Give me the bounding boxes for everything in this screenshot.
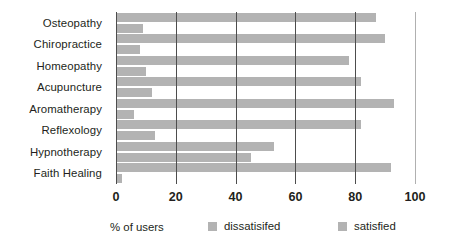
tick-label-80: 80: [348, 190, 362, 205]
legend-item-dissatisfied: dissatisifed: [208, 219, 280, 233]
bar-satisfied: [116, 77, 361, 86]
chart-footer: % of users dissatisifed satisfied: [0, 219, 449, 239]
legend-swatch-icon: [338, 222, 347, 231]
tick-label-60: 60: [288, 190, 302, 205]
bar-chart: Osteopathy Chiropractice Homeopathy Acup…: [0, 0, 449, 244]
bar-dissatisfied: [116, 153, 251, 162]
value-axis: 020406080100: [0, 190, 449, 208]
category-label-osteopathy: Osteopathy: [0, 17, 102, 29]
grid-line-60: [295, 12, 296, 184]
category-label-chiropractice: Chiropractice: [0, 38, 102, 50]
bar-dissatisfied: [116, 45, 140, 54]
bar-dissatisfied: [116, 110, 134, 119]
legend-label-dissatisfied: dissatisifed: [224, 219, 280, 233]
axis-caption: % of users: [110, 220, 164, 234]
bar-satisfied: [116, 163, 391, 172]
category-label-hypnotherapy: Hypnotherapy: [0, 146, 102, 158]
plot-area: [116, 12, 415, 184]
grid-line-20: [176, 12, 177, 184]
legend-item-satisfied: satisfied: [338, 219, 396, 233]
bar-dissatisfied: [116, 88, 152, 97]
grid-line-80: [355, 12, 356, 184]
bar-satisfied: [116, 56, 349, 65]
category-label-aromatherapy: Aromatherapy: [0, 103, 102, 115]
category-label-faith-healing: Faith Healing: [0, 167, 102, 179]
axis-line-zero: [116, 12, 117, 184]
tick-label-20: 20: [169, 190, 183, 205]
tick-label-40: 40: [229, 190, 243, 205]
tick-label-0: 0: [112, 190, 119, 205]
bar-satisfied: [116, 13, 376, 22]
bar-satisfied: [116, 142, 274, 151]
bar-satisfied: [116, 99, 394, 108]
bar-dissatisfied: [116, 131, 155, 140]
legend-label-satisfied: satisfied: [354, 219, 396, 233]
category-label-acupuncture: Acupuncture: [0, 81, 102, 93]
category-label-homeopathy: Homeopathy: [0, 60, 102, 72]
category-label-reflexology: Reflexology: [0, 124, 102, 136]
grid-line-100: [415, 12, 416, 184]
legend-swatch-icon: [208, 222, 217, 231]
category-axis: Osteopathy Chiropractice Homeopathy Acup…: [0, 12, 110, 184]
grid-line-40: [236, 12, 237, 184]
bar-dissatisfied: [116, 67, 146, 76]
bar-dissatisfied: [116, 24, 143, 33]
tick-label-100: 100: [404, 190, 425, 205]
bar-satisfied: [116, 120, 361, 129]
bar-satisfied: [116, 34, 385, 43]
